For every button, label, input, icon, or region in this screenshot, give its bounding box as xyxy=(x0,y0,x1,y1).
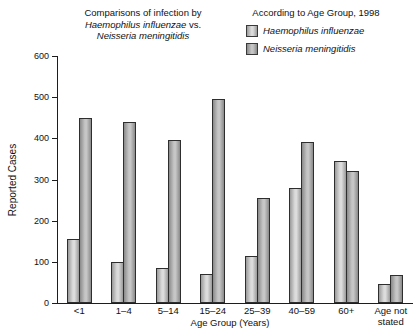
x-axis-title: Age Group (Years) xyxy=(100,317,360,328)
legend-item-haemophilus: Haemophilus influenzae xyxy=(246,25,402,37)
bar-group xyxy=(191,56,236,303)
bar-neisseria xyxy=(212,99,225,303)
bar-neisseria xyxy=(168,140,181,303)
bar-group xyxy=(369,56,413,303)
bar-neisseria xyxy=(390,275,403,303)
legend-label: Neisseria meningitidis xyxy=(263,43,355,54)
chart-title-species2: Neisseria meningitidis xyxy=(97,30,189,41)
bar-group xyxy=(280,56,325,303)
x-tick-label: Age not stated xyxy=(369,306,413,327)
chart-title-vs: vs. xyxy=(186,19,201,30)
y-tick-label: 500 xyxy=(20,92,49,102)
chart-title: Comparisons of infection by Haemophilus … xyxy=(48,7,238,42)
bar-group xyxy=(102,56,147,303)
bar-neisseria xyxy=(301,142,314,303)
legend-swatch-haemophilus-icon xyxy=(246,25,258,37)
bar-group xyxy=(324,56,369,303)
bar-neisseria xyxy=(257,198,270,303)
bar-neisseria xyxy=(79,118,92,303)
chart-subtitle: According to Age Group, 1998 xyxy=(230,7,402,19)
bar-neisseria xyxy=(123,122,136,303)
y-tick-label: 0 xyxy=(20,298,49,308)
y-tick xyxy=(52,303,57,304)
bar-neisseria xyxy=(346,171,359,303)
y-tick-label: 100 xyxy=(20,257,49,267)
chart-title-line1: Comparisons of infection by xyxy=(84,7,201,18)
bar-group xyxy=(57,56,102,303)
figure: Comparisons of infection by Haemophilus … xyxy=(0,0,413,334)
x-axis xyxy=(57,303,413,304)
legend-swatch-neisseria-icon xyxy=(246,43,258,55)
plot-area xyxy=(57,56,413,303)
legend-label: Haemophilus influenzae xyxy=(263,25,364,36)
bar-group xyxy=(235,56,280,303)
legend: Haemophilus influenzae Neisseria meningi… xyxy=(246,25,402,55)
y-axis-title: Reported Cases xyxy=(7,144,18,216)
y-tick-label: 600 xyxy=(20,51,49,61)
legend-block: According to Age Group, 1998 Haemophilus… xyxy=(230,7,402,61)
y-tick-label: 300 xyxy=(20,175,49,185)
y-tick-label: 400 xyxy=(20,133,49,143)
y-tick-label: 200 xyxy=(20,216,49,226)
x-tick-label: <1 xyxy=(57,306,102,327)
chart-title-species1: Haemophilus influenzae xyxy=(85,19,186,30)
bar-group xyxy=(146,56,191,303)
legend-item-neisseria: Neisseria meningitidis xyxy=(246,43,402,55)
